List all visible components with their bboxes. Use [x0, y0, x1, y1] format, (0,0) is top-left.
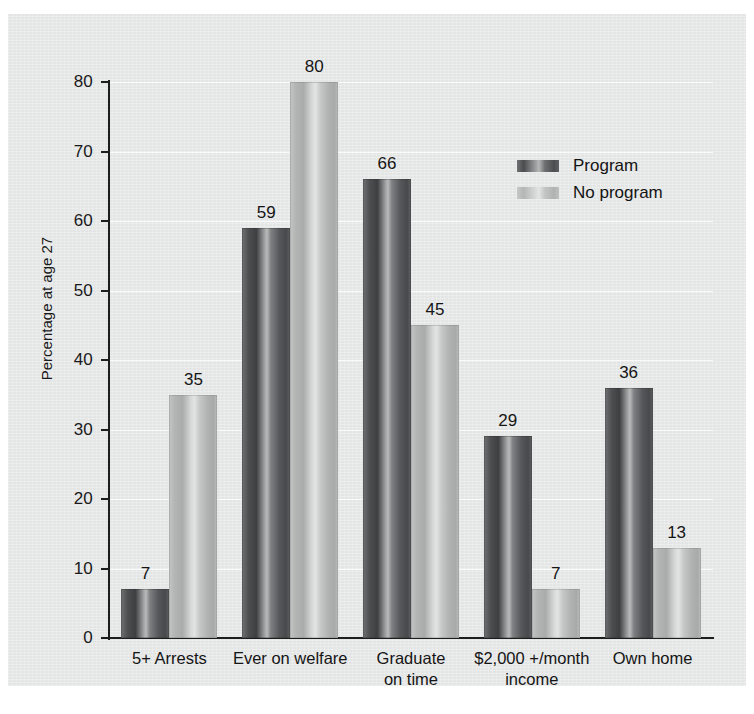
bar[interactable] — [169, 395, 217, 638]
legend-swatch-program-icon — [517, 160, 559, 172]
y-axis-tick — [101, 151, 109, 153]
y-axis-tick — [101, 637, 109, 639]
legend-swatch-no-program-icon — [517, 187, 559, 199]
x-axis-category-line: $2,000 +/month — [474, 649, 589, 667]
bar-value-label: 36 — [605, 363, 653, 383]
bar[interactable] — [605, 388, 653, 638]
y-axis-tick-label: 40 — [53, 350, 93, 370]
y-axis-tick-label: 10 — [53, 559, 93, 579]
bar[interactable] — [653, 548, 701, 638]
bar-value-label: 7 — [121, 564, 169, 584]
bar[interactable] — [411, 325, 459, 638]
y-axis-tick-label: 60 — [53, 211, 93, 231]
bar[interactable] — [484, 436, 532, 638]
bar[interactable] — [242, 228, 290, 638]
bar[interactable] — [121, 589, 169, 638]
y-axis-tick-label: 0 — [53, 628, 93, 648]
bar[interactable] — [290, 82, 338, 638]
y-axis-tick — [101, 81, 109, 83]
y-axis-tick-label: 20 — [53, 489, 93, 509]
bar-value-label: 59 — [242, 203, 290, 223]
x-axis-category-line: 5+ Arrests — [132, 649, 207, 667]
bar-value-label: 13 — [653, 523, 701, 543]
x-axis-category-label: Own home — [580, 648, 725, 669]
bar[interactable] — [363, 179, 411, 638]
bar-value-label: 35 — [169, 370, 217, 390]
chart-figure: 01020304050607080 Percentage at age 27 7… — [0, 0, 754, 714]
bar-value-label: 80 — [290, 57, 338, 77]
y-axis-tick — [101, 498, 109, 500]
bar-value-label: 45 — [411, 300, 459, 320]
chart-panel: 01020304050607080 Percentage at age 27 7… — [8, 14, 746, 686]
bar[interactable] — [532, 589, 580, 638]
y-axis-tick-label: 30 — [53, 420, 93, 440]
y-axis-tick — [101, 568, 109, 570]
bar-value-label: 7 — [532, 564, 580, 584]
y-axis-tick — [101, 290, 109, 292]
legend-item-program[interactable]: Program — [517, 152, 707, 179]
legend-label-no-program: No program — [573, 183, 663, 203]
y-axis-tick-label: 50 — [53, 281, 93, 301]
y-axis-tick-label: 70 — [53, 142, 93, 162]
legend-item-no-program[interactable]: No program — [517, 179, 707, 206]
x-axis-category-line: on time — [384, 670, 438, 688]
y-axis-tick — [101, 220, 109, 222]
x-axis-category-line: income — [505, 670, 558, 688]
y-axis-title: Percentage at age 27 — [38, 209, 55, 409]
y-axis-tick — [101, 359, 109, 361]
x-axis-category-line: Graduate — [377, 649, 446, 667]
legend-label-program: Program — [573, 156, 638, 176]
y-axis-tick — [101, 429, 109, 431]
bar-value-label: 29 — [484, 411, 532, 431]
legend: Program No program — [517, 152, 707, 206]
x-axis-category-line: Ever on welfare — [233, 649, 348, 667]
x-axis-category-line: Own home — [613, 649, 693, 667]
bar-value-label: 66 — [363, 154, 411, 174]
y-axis-tick-label: 80 — [53, 72, 93, 92]
